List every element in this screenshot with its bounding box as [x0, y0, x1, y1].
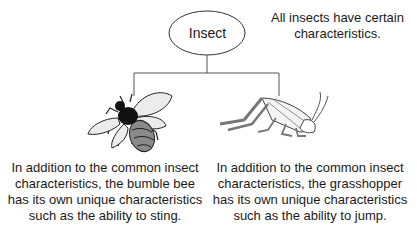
bumble-bee-icon — [88, 93, 172, 155]
root-node-label: Insect — [170, 25, 245, 41]
grasshopper-description: In addition to the common insect charact… — [210, 160, 410, 224]
connector-lines — [134, 55, 279, 96]
bumble-bee-description: In addition to the common insect charact… — [5, 160, 205, 224]
grasshopper-icon — [220, 92, 328, 136]
root-description: All insects have certain characteristics… — [270, 10, 405, 42]
